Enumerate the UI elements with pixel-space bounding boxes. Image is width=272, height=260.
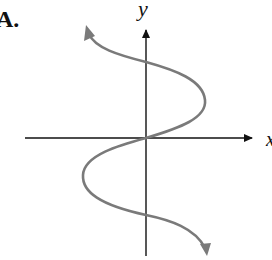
curve [83,34,205,248]
curve-bottom-arrow-icon [200,243,211,256]
graph [0,0,272,260]
